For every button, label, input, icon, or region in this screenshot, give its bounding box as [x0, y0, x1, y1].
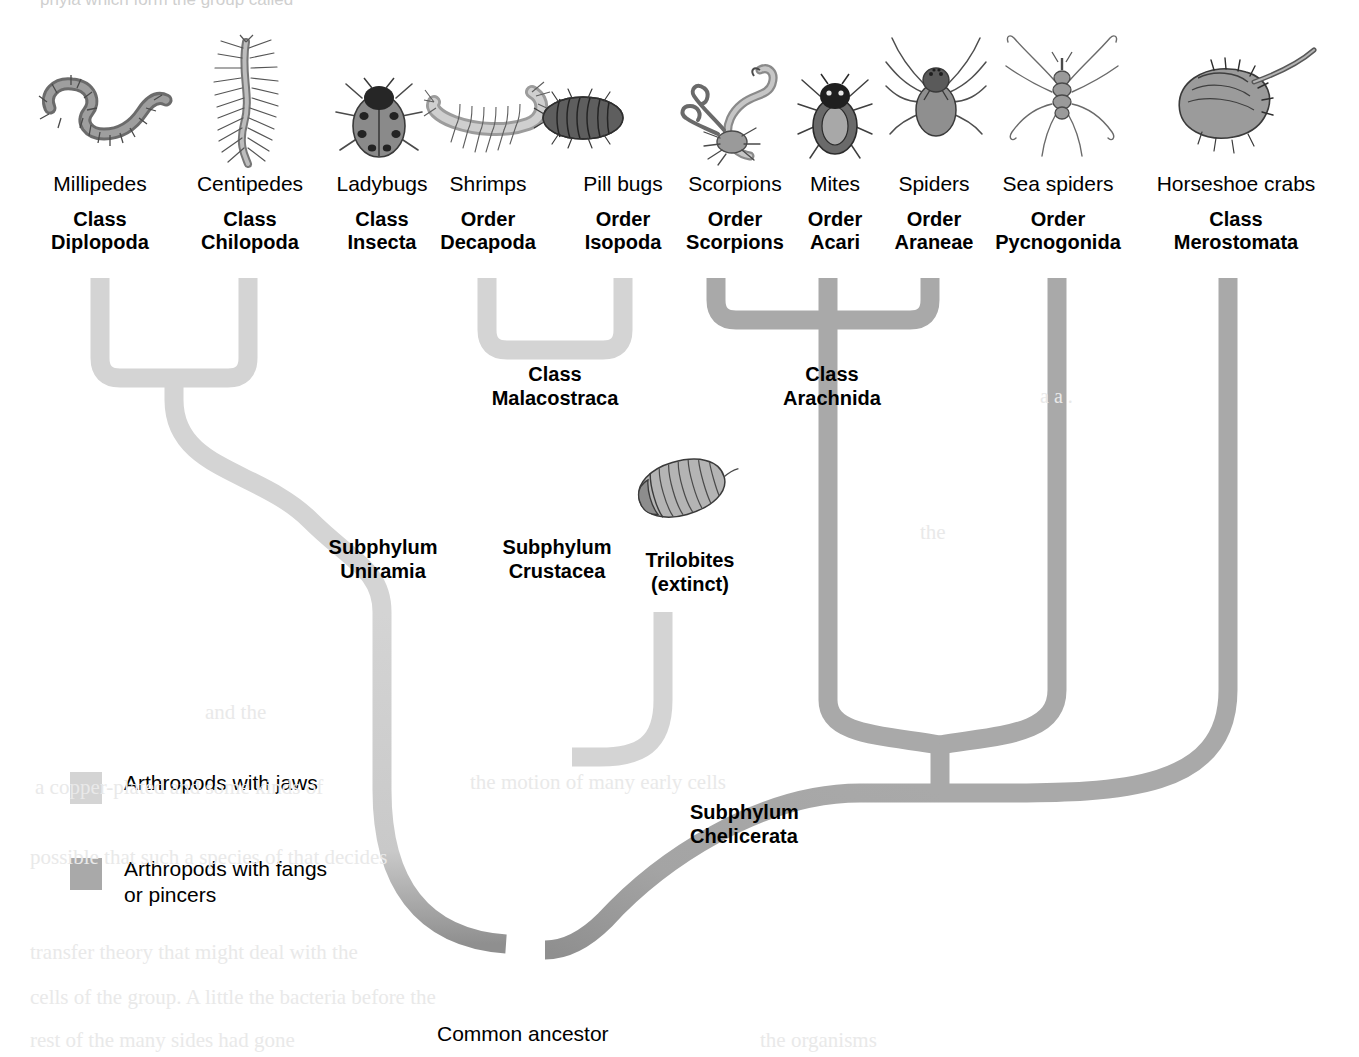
clade-name: Uniramia	[288, 559, 478, 583]
clade-name: Malacostraca	[455, 386, 655, 410]
clade-rank: Subphylum	[690, 800, 920, 824]
pillbug-illustration	[530, 78, 636, 158]
sea-spider-illustration	[1000, 32, 1124, 162]
taxon-rank: Class	[170, 208, 330, 232]
clade-name: Chelicerata	[690, 824, 920, 848]
taxon-scientific-name: Order Decapoda	[422, 208, 554, 255]
horseshoe-crab-illustration	[1158, 40, 1318, 158]
taxon-scientific-name: Order Scorpions	[660, 208, 810, 255]
taxon-spiders: Spiders Order Araneae	[874, 172, 994, 255]
branch-trilobites	[572, 612, 663, 757]
phylogenetic-tree-figure: phyla which form the group called	[0, 0, 1359, 1057]
taxon-scientific-name: Class Chilopoda	[170, 208, 330, 255]
taxon-name: Chilopoda	[170, 231, 330, 255]
taxon-common-name: Centipedes	[170, 172, 330, 197]
branch-merostomata	[940, 278, 1228, 793]
legend-swatch-jaws	[70, 772, 102, 804]
taxon-name: Merostomata	[1136, 231, 1336, 255]
taxon-sea-spiders: Sea spiders Order Pycnogonida	[980, 172, 1136, 255]
clade-rank: Class	[742, 362, 922, 386]
clade-label-uniramia: Subphylum Uniramia	[288, 535, 478, 583]
taxon-millipedes: Millipedes Class Diplopoda	[20, 172, 180, 255]
taxon-scientific-name: Class Diplopoda	[20, 208, 180, 255]
clade-rank: Class	[455, 362, 655, 386]
taxon-name: Acari	[790, 231, 880, 255]
taxon-rank: Order	[660, 208, 810, 232]
ladybug-illustration	[326, 72, 434, 166]
taxon-scientific-name: Order Araneae	[874, 208, 994, 255]
legend-text-jaws: Arthropods with jaws	[124, 770, 318, 796]
branch-malacostraca-clade	[487, 278, 623, 350]
spider-illustration	[884, 32, 988, 164]
trilobites-name: Trilobites	[610, 548, 770, 572]
taxon-rank: Order	[874, 208, 994, 232]
branch-pycnogonida	[940, 278, 1057, 745]
taxon-rank: Order	[790, 208, 880, 232]
taxon-common-name: Mites	[790, 172, 880, 197]
taxon-common-name: Sea spiders	[980, 172, 1136, 197]
clade-label-chelicerata: Subphylum Chelicerata	[690, 800, 920, 848]
legend-item-jaws: Arthropods with jaws	[70, 770, 327, 804]
legend-swatch-fangs	[70, 858, 102, 890]
legend-line-2: or pincers	[124, 882, 327, 908]
trilobite-illustration	[612, 444, 744, 536]
taxon-common-name: Spiders	[874, 172, 994, 197]
clade-label-malacostraca: Class Malacostraca	[455, 362, 655, 410]
millipede-illustration	[30, 58, 175, 168]
taxon-rank: Class	[20, 208, 180, 232]
taxon-name: Decapoda	[422, 231, 554, 255]
legend-text-fangs: Arthropods with fangs or pincers	[124, 856, 327, 907]
clade-rank: Subphylum	[288, 535, 478, 559]
taxon-mites: Mites Order Acari	[790, 172, 880, 255]
taxon-rank: Order	[422, 208, 554, 232]
taxon-centipedes: Centipedes Class Chilopoda	[170, 172, 330, 255]
taxon-common-name: Millipedes	[20, 172, 180, 197]
taxon-name: Scorpions	[660, 231, 810, 255]
clade-name: Arachnida	[742, 386, 922, 410]
taxon-scorpions: Scorpions Order Scorpions	[660, 172, 810, 255]
taxon-rank: Class	[1136, 208, 1336, 232]
taxon-horseshoe-crabs: Horseshoe crabs Class Merostomata	[1136, 172, 1336, 255]
root-label-common-ancestor: Common ancestor	[437, 1022, 609, 1046]
mite-illustration	[794, 70, 876, 166]
taxon-scientific-name: Class Merostomata	[1136, 208, 1336, 255]
centipede-illustration	[186, 34, 306, 169]
taxon-name: Pycnogonida	[980, 231, 1136, 255]
legend: Arthropods with jaws Arthropods with fan…	[70, 770, 327, 959]
clade-label-arachnida: Class Arachnida	[742, 362, 922, 410]
taxon-name: Diplopoda	[20, 231, 180, 255]
taxon-common-name: Scorpions	[660, 172, 810, 197]
branch-myriapod-clade	[100, 278, 248, 378]
taxon-rank: Order	[980, 208, 1136, 232]
taxon-common-name: Horseshoe crabs	[1136, 172, 1336, 197]
clade-label-trilobites: Trilobites (extinct)	[610, 548, 770, 596]
legend-line-1: Arthropods with fangs	[124, 856, 327, 882]
branch-uniramia-to-root	[382, 612, 506, 944]
scorpion-illustration	[676, 62, 796, 166]
taxon-scientific-name: Order Acari	[790, 208, 880, 255]
legend-item-fangs: Arthropods with fangs or pincers	[70, 856, 327, 907]
legend-line-1: Arthropods with jaws	[124, 770, 318, 796]
taxon-name: Araneae	[874, 231, 994, 255]
taxon-shrimps: Shrimps Order Decapoda	[422, 172, 554, 255]
taxon-common-name: Shrimps	[422, 172, 554, 197]
trilobites-status: (extinct)	[610, 572, 770, 596]
branch-arachnida-to-chelicerate-node	[828, 700, 940, 745]
taxon-scientific-name: Order Pycnogonida	[980, 208, 1136, 255]
